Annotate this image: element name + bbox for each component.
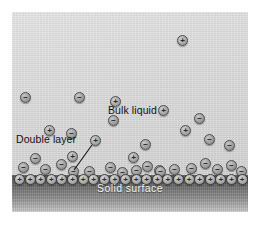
ion-sign: +: [161, 106, 166, 114]
anion-ion: −: [105, 162, 116, 173]
anion-ion: −: [200, 158, 211, 169]
anion-ion: −: [74, 92, 85, 103]
anion-ion: −: [18, 162, 29, 173]
ion-sign: −: [172, 165, 177, 173]
ion-sign: −: [134, 166, 139, 174]
ion-sign: −: [111, 116, 116, 124]
anion-ion: −: [204, 134, 215, 145]
ion-sign: −: [145, 162, 150, 170]
anion-ion: −: [20, 92, 31, 103]
cation-ion: +: [180, 125, 191, 136]
liquid-region: [12, 12, 248, 175]
ion-sign: −: [43, 165, 48, 173]
anion-ion: −: [56, 159, 67, 170]
ion-sign: −: [189, 164, 194, 172]
cation-ion: +: [158, 105, 169, 116]
solid-surface-label: Solid surface: [12, 182, 248, 194]
ion-sign: −: [203, 159, 208, 167]
ion-sign: −: [23, 93, 28, 101]
anion-ion: −: [108, 115, 119, 126]
ion-sign: −: [197, 114, 202, 122]
cation-ion: +: [67, 151, 78, 162]
cation-ion: +: [90, 135, 101, 146]
ion-sign: −: [143, 140, 148, 148]
ion-sign: +: [183, 126, 188, 134]
double-layer-diagram: +++++++++−−−−−−−−−−−−−−−−−−−−−−−−−++++++…: [12, 12, 248, 212]
ion-sign: −: [21, 163, 26, 171]
ion-sign: −: [215, 165, 220, 173]
ion-sign: +: [131, 153, 136, 161]
ion-sign: −: [33, 154, 38, 162]
cation-ion: +: [177, 35, 188, 46]
figure-root: +++++++++−−−−−−−−−−−−−−−−−−−−−−−−−++++++…: [0, 0, 258, 227]
ion-sign: −: [77, 93, 82, 101]
anion-ion: −: [224, 140, 235, 151]
ion-sign: −: [229, 161, 234, 169]
anion-ion: −: [142, 161, 153, 172]
ion-sign: −: [59, 160, 64, 168]
liquid-texture: [12, 12, 248, 175]
anion-ion: −: [186, 163, 197, 174]
bulk-liquid-label: Bulk liquid: [108, 104, 157, 116]
cation-ion: +: [128, 152, 139, 163]
ion-sign: +: [70, 152, 75, 160]
anion-ion: −: [194, 113, 205, 124]
anion-ion: −: [140, 139, 151, 150]
ion-sign: −: [108, 163, 113, 171]
double-layer-label: Double layer: [16, 133, 76, 145]
ion-sign: −: [207, 135, 212, 143]
ion-sign: −: [227, 141, 232, 149]
ion-sign: +: [180, 36, 185, 44]
ion-sign: +: [93, 136, 98, 144]
anion-ion: −: [30, 153, 41, 164]
